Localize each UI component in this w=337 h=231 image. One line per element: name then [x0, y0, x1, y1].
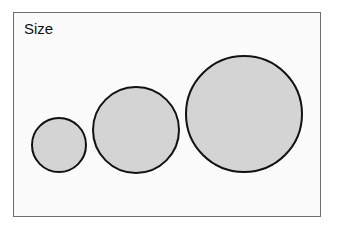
circle-medium — [93, 87, 179, 173]
circle-small — [32, 118, 86, 172]
circles-canvas — [0, 0, 337, 231]
circle-large — [186, 56, 302, 172]
